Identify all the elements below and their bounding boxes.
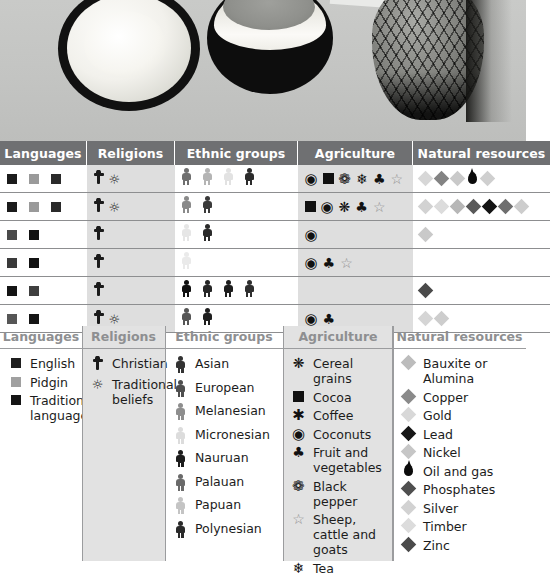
legend-item: ✱Coffee [283, 408, 393, 427]
legend-item-label: Bauxite or Alumina [423, 356, 520, 386]
person-icon [182, 280, 191, 301]
square-icon [51, 169, 61, 188]
diamond-icon [401, 427, 416, 442]
legend-item-label: Silver [423, 501, 520, 516]
diamond-icon [401, 519, 416, 534]
legend-item: Christian [82, 356, 165, 377]
cell-agriculture-row3: ◉ [298, 221, 413, 249]
legend-item: Papuan [165, 497, 283, 521]
diamond-icon [401, 501, 416, 516]
square-icon [8, 393, 23, 408]
legend-item: European [165, 380, 283, 404]
cell-languages-row5 [0, 277, 87, 305]
diamond-icon [482, 169, 493, 188]
person-icon [182, 196, 191, 217]
legend-item: Traditional languages [0, 393, 82, 427]
cell-agriculture-row2: ◉❋♣☆ [298, 193, 413, 221]
legend-column-religions: ReligionsChristian☼Traditional beliefs [82, 326, 165, 561]
legend-item: Oil and gas [393, 464, 526, 483]
cereal-icon: ❋ [293, 356, 305, 371]
legend-column-natural-resources: Natural resourcesBauxite or AluminaCoppe… [393, 326, 526, 561]
square-icon [29, 169, 39, 188]
legend-item-label: Oil and gas [423, 464, 520, 479]
diamond-icon [403, 356, 414, 371]
blackpepper-icon: ❁ [339, 169, 352, 188]
cell-resources-row5 [413, 277, 550, 305]
person-icon [176, 526, 185, 541]
person-icon [176, 502, 185, 517]
legend-item: Zinc [393, 538, 526, 557]
legend-divider [393, 326, 394, 561]
square-icon [29, 197, 39, 216]
cell-resources-row2 [413, 193, 550, 221]
person-icon [176, 479, 185, 494]
square-icon [29, 225, 39, 244]
square-icon [29, 281, 39, 300]
cocoa-icon [293, 390, 304, 405]
column-header-natural-resources: Natural resources [413, 141, 550, 165]
legend-divider [165, 326, 166, 561]
table-body: ☼◉❁❄♣☆☼◉❋♣☆◉◉♣☆☼◉♣ [0, 165, 550, 333]
cross-icon [94, 253, 104, 272]
square-icon [29, 253, 39, 272]
data-table: Languages Religions Ethnic groups Agricu… [0, 141, 550, 333]
sheep-icon: ☆ [390, 169, 403, 188]
cell-resources-row4 [413, 249, 550, 277]
person-icon [245, 280, 254, 301]
legend-item-label: Asian [195, 356, 277, 371]
cell-religions-row3 [87, 221, 175, 249]
cocoa-icon [305, 197, 316, 216]
person-icon [182, 168, 191, 189]
cocoa-icon [323, 169, 334, 188]
square-icon [7, 253, 17, 272]
legend-item-label: Pidgin [30, 375, 76, 390]
table-row: ◉♣☆ [0, 249, 550, 277]
cross-icon [94, 197, 104, 216]
header-photo [0, 0, 526, 141]
legend-item: Nickel [393, 445, 526, 464]
person-icon [182, 224, 191, 245]
diamond-icon [401, 538, 416, 553]
legend-item-label: Coconuts [313, 427, 387, 442]
legend-item-label: Tea [313, 561, 387, 576]
legend-item: Copper [393, 390, 526, 409]
coconut-icon: ◉ [292, 427, 305, 442]
legend-item-label: Melanesian [195, 403, 277, 418]
fruitveg-icon: ♣ [323, 253, 336, 272]
column-header-agriculture: Agriculture [298, 141, 413, 165]
legend-item-label: Black pepper [313, 479, 387, 509]
person-icon [203, 280, 212, 301]
coconut-icon: ◉ [305, 225, 318, 244]
cross-icon [94, 169, 104, 188]
legend-item-label: Gold [423, 408, 520, 423]
legend-item: ♣Fruit and vegetables [283, 445, 393, 479]
cell-ethnic-row3 [175, 221, 298, 249]
square-icon [11, 375, 21, 390]
legend-item: Bauxite or Alumina [393, 356, 526, 390]
legend-item-label: Fruit and vegetables [313, 445, 387, 475]
coconut-icon: ◉ [321, 197, 334, 216]
symbol-table: Languages Religions Ethnic groups Agricu… [0, 141, 526, 333]
legend-item: ☼Traditional beliefs [82, 377, 165, 411]
oil-icon [404, 464, 413, 479]
legend-items: Bauxite or AluminaCopperGoldLeadNickelOi… [393, 349, 526, 556]
cereal-icon: ❋ [339, 197, 351, 216]
diamond-icon [500, 197, 511, 216]
table-row: ☼◉❋♣☆ [0, 193, 550, 221]
oil-icon [401, 464, 416, 479]
diamond-icon [403, 408, 414, 423]
oil-icon [468, 169, 477, 188]
diamond-icon [403, 538, 414, 553]
diamond-icon [401, 390, 416, 405]
legend-item: Palauan [165, 474, 283, 498]
person-icon [176, 455, 185, 470]
cell-ethnic-row4 [175, 249, 298, 277]
legend-divider [283, 326, 284, 561]
diamond-icon [403, 427, 414, 442]
square-icon [8, 375, 23, 390]
legend-item-label: Timber [423, 519, 520, 534]
legend-divider [392, 326, 393, 561]
diamond-icon [403, 445, 414, 460]
diamond-icon [420, 225, 431, 244]
legend-item-label: Nickel [423, 445, 520, 460]
